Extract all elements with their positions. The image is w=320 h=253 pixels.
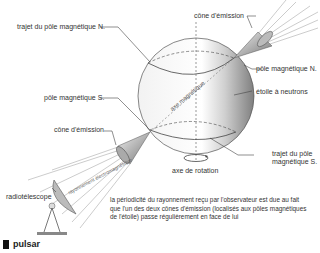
label-north-path: trajet du pôle magnétique N. [17,23,105,31]
label-emission-cone-bottom: cône d'émission [54,126,104,134]
title-marker [3,240,9,249]
label-south-path-1: trajet du pôle [272,150,312,158]
label-radiotelescope: radiotélescope [6,193,52,201]
label-south-path-2: magnétique S. [272,158,317,166]
label-emission-cone-top: cône d'émission [194,12,244,20]
label-neutron-star: étoile à neutrons [256,88,308,96]
label-south-pole: pôle magnétique S. [44,94,104,102]
label-north-pole: pôle magnétique N. [256,65,317,73]
caption: la périodicité du rayonnement reçu par l… [110,196,310,222]
label-rotation-axis: axe de rotation [172,167,218,175]
emission-cone-north [234,0,318,58]
title-text: pulsar [13,239,40,249]
figure-title: pulsar [3,239,40,249]
